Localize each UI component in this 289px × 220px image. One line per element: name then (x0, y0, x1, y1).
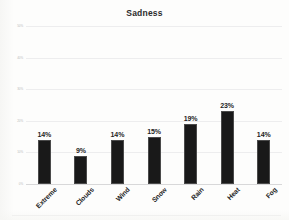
bar[interactable] (38, 140, 51, 184)
chart-title: Sadness (0, 8, 289, 18)
bar-value-label: 9% (67, 147, 95, 154)
x-axis-category-label: Wind (115, 186, 131, 202)
x-axis-category-label: Clouds (74, 186, 95, 207)
bar-group[interactable]: 14% (30, 26, 58, 184)
y-axis-tick-label: 10% (17, 150, 23, 154)
x-axis-category-label: Rain (189, 186, 204, 201)
bar-group[interactable]: 14% (250, 26, 278, 184)
bar[interactable] (111, 140, 124, 184)
x-axis-category-label: Snow (150, 186, 167, 203)
bar[interactable] (221, 111, 234, 184)
bar-value-label: 23% (213, 102, 241, 109)
plot-area: 50%40%30%20%10%0% 14%9%14%15%19%23%14% (26, 26, 282, 184)
bar-value-label: 15% (140, 128, 168, 135)
bar-chart: Sadness 50%40%30%20%10%0% 14%9%14%15%19%… (0, 0, 289, 220)
y-axis-tick-label: 50% (17, 24, 23, 28)
y-axis-tick-label: 20% (17, 119, 23, 123)
y-axis-tick-label: 40% (17, 56, 23, 60)
bottom-divider (12, 215, 281, 216)
y-axis-tick-label: 0% (19, 182, 23, 186)
bar[interactable] (257, 140, 270, 184)
x-axis-category-label: Heat (226, 186, 241, 201)
x-axis-category-label: Extreme (35, 186, 58, 209)
bars-container: 14%9%14%15%19%23%14% (26, 26, 282, 184)
bar[interactable] (74, 156, 87, 184)
y-axis-tick-label: 30% (17, 87, 23, 91)
bar[interactable] (148, 137, 161, 184)
bar-group[interactable]: 19% (177, 26, 205, 184)
x-axis-category-label: Fog (264, 186, 278, 200)
bar-group[interactable]: 14% (103, 26, 131, 184)
bar[interactable] (184, 124, 197, 184)
bar-value-label: 14% (30, 131, 58, 138)
gridline (26, 184, 282, 185)
bar-group[interactable]: 15% (140, 26, 168, 184)
bar-group[interactable]: 9% (67, 26, 95, 184)
bar-group[interactable]: 23% (213, 26, 241, 184)
bar-value-label: 14% (103, 131, 131, 138)
bar-value-label: 14% (250, 131, 278, 138)
bar-value-label: 19% (177, 115, 205, 122)
